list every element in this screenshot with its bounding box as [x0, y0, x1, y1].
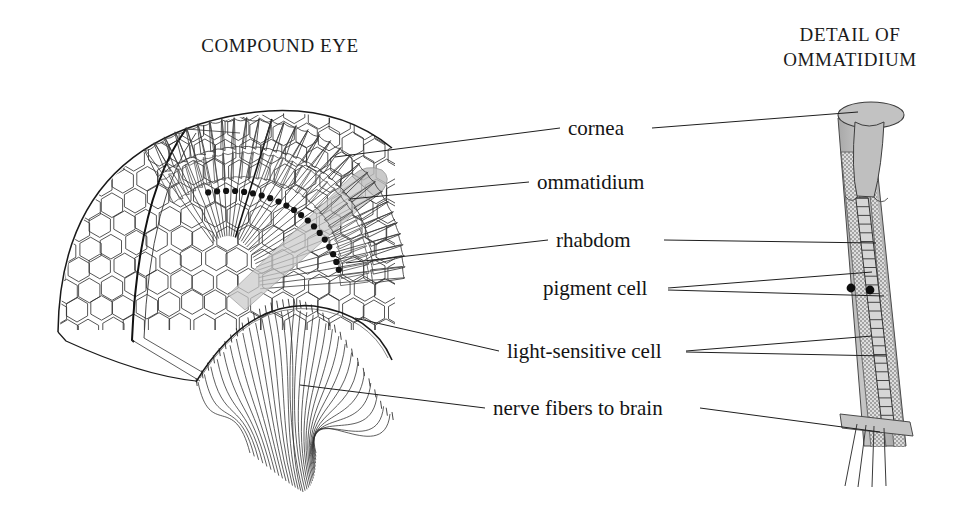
facet-hexagon — [77, 319, 98, 344]
pigment-dot — [330, 251, 336, 257]
nerve-fiber — [204, 374, 254, 456]
facet-hexagon — [157, 335, 178, 360]
basement-tick — [288, 299, 289, 307]
facet-hexagon — [171, 226, 192, 251]
basement-tick — [300, 300, 301, 308]
facet-hexagon — [80, 73, 101, 98]
facet-hexagon — [55, 78, 76, 103]
facet-hexagon — [57, 118, 78, 143]
cornea-cap — [838, 102, 904, 128]
facet-hexagon — [399, 82, 420, 107]
facet-hexagon — [183, 333, 204, 358]
facet-hexagon — [398, 361, 419, 386]
facet-hexagon — [55, 199, 76, 224]
facet-hexagon — [112, 338, 133, 363]
facet-hexagon — [67, 97, 88, 122]
facet-hexagon — [251, 75, 272, 100]
pigment-dot — [305, 217, 311, 223]
facet-hexagon — [67, 177, 88, 202]
nerve-fiber — [313, 372, 365, 466]
label-cornea: cornea — [568, 116, 624, 141]
facet-hexagon — [80, 237, 101, 262]
pigment-dot — [336, 267, 342, 273]
facet-hexagon — [45, 183, 66, 208]
facet-hexagon — [343, 91, 364, 116]
facet-hexagon — [89, 213, 110, 238]
facet-hexagon — [68, 217, 89, 242]
pigment-dot — [205, 189, 211, 195]
facet-hexagon — [180, 247, 201, 272]
pigment-dot — [214, 188, 220, 194]
facet-hexagon — [399, 161, 420, 186]
facet-hexagon — [354, 115, 375, 140]
nerve-fiber — [268, 316, 292, 486]
facet-hexagon — [34, 201, 55, 226]
facet-hexagon — [160, 249, 181, 274]
nerve-fiber — [290, 310, 303, 492]
cut-face-cell — [368, 234, 403, 256]
leader-light-sensitive-cell — [355, 318, 499, 351]
facet-hexagon — [124, 188, 145, 213]
facet-hexagon — [263, 54, 284, 79]
cut-face-cell-inner — [194, 159, 210, 187]
facet-hexagon — [114, 84, 135, 109]
facet-hexagon — [159, 207, 180, 232]
diagram-canvas: COMPOUND EYE DETAIL OF OMMATIDIUM — [0, 0, 956, 509]
nerve-fiber — [230, 345, 271, 469]
facet-hexagon — [297, 81, 318, 106]
facet-hexagon — [181, 74, 202, 99]
basement-tick — [381, 401, 382, 409]
nerve-fiber — [262, 319, 289, 484]
facet-hexagon — [57, 158, 78, 183]
pigment-dot — [291, 207, 297, 213]
facet-hexagon — [193, 95, 214, 120]
leader-light-sensitive-cell — [686, 352, 886, 356]
facet-hexagon — [43, 222, 64, 247]
facet-hexagon — [78, 114, 99, 139]
facet-hexagon — [101, 276, 122, 301]
nerve-fiber — [314, 406, 384, 456]
facet-hexagon — [215, 313, 236, 338]
facet-hexagon — [66, 137, 87, 162]
facet-hexagon — [159, 292, 180, 317]
facet-hexagon — [79, 196, 100, 221]
pigment-dot — [241, 189, 247, 195]
facet-hexagon — [34, 83, 55, 108]
facet-hexagon — [400, 121, 421, 146]
basement-tick — [346, 340, 347, 348]
cut-face-cell — [242, 118, 260, 149]
basement-tick — [386, 408, 387, 416]
facet-hexagon — [102, 358, 123, 383]
facet-hexagon — [237, 53, 258, 78]
facet-hexagon — [89, 254, 110, 279]
diagram-artwork — [0, 0, 956, 509]
facet-hexagon — [91, 130, 112, 155]
nerve-fiber — [198, 382, 250, 453]
pigment-dot — [322, 237, 328, 243]
facet-hexagon — [171, 270, 192, 295]
facet-hexagon — [285, 314, 306, 339]
pigment-dot — [275, 199, 281, 205]
facet-hexagon — [90, 89, 111, 114]
facet-hexagon — [33, 280, 54, 305]
facet-hexagon — [103, 151, 124, 176]
facet-hexagon — [135, 81, 156, 106]
facet-hexagon — [45, 340, 66, 365]
facet-hexagon — [91, 172, 112, 197]
pigment-dot — [259, 192, 265, 198]
facet-hexagon — [66, 297, 87, 322]
pigment-dot — [317, 230, 323, 236]
facet-hexagon — [169, 313, 190, 338]
facet-hexagon — [182, 290, 203, 315]
facet-hexagon — [44, 104, 65, 129]
facet-hexagon — [147, 99, 168, 124]
facet-hexagon — [342, 132, 363, 157]
nerve-fiber — [224, 352, 267, 466]
facet-hexagon — [262, 96, 283, 121]
facet-hexagon — [32, 161, 53, 186]
basement-tick — [340, 332, 341, 340]
facet-hexagon — [400, 281, 421, 306]
facet-hexagon — [206, 72, 227, 97]
facet-hexagon — [56, 360, 77, 385]
facet-hexagon — [228, 379, 249, 404]
